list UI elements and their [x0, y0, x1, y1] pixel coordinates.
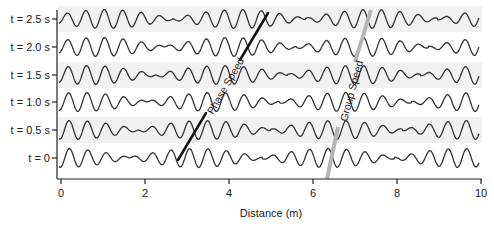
- x-tick-label: 2: [142, 187, 148, 199]
- wave-trace: [59, 38, 479, 57]
- wave-trace: [59, 93, 479, 112]
- row-label: t = 2.0 s: [11, 41, 51, 53]
- y-axis: t = 2.5 st = 2.0 st = 1.5 st = 1.0 st = …: [11, 10, 57, 179]
- x-axis: 0246810: [57, 179, 487, 199]
- row-label: t = 1.5 s: [11, 69, 51, 81]
- x-tick-label: 4: [226, 187, 232, 199]
- wave-group-figure: Phase Speed Group Speed t = 2.5 st = 2.0…: [0, 0, 494, 230]
- row-label: t = 1.0 s: [11, 96, 51, 108]
- row-label: t = 0.5 s: [11, 124, 51, 136]
- x-tick-label: 6: [310, 187, 316, 199]
- x-tick-label: 8: [394, 187, 400, 199]
- row-band: [58, 62, 482, 88]
- row-label: t = 0: [28, 152, 50, 164]
- wave-trace: [59, 149, 479, 168]
- row-label: t = 2.5 s: [11, 13, 51, 25]
- speed-lines: [178, 10, 371, 179]
- wave-traces: [59, 10, 479, 168]
- x-tick-label: 0: [58, 187, 64, 199]
- x-tick-label: 10: [475, 187, 487, 199]
- x-axis-title: Distance (m): [240, 207, 302, 219]
